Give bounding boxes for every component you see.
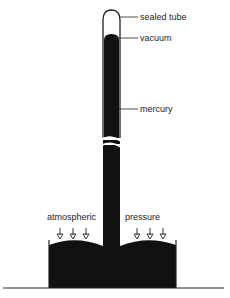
- label-mercury: mercury: [140, 104, 173, 114]
- mercury-column-upper: [104, 34, 119, 138]
- mercury-column-lower: [103, 145, 120, 250]
- label-vacuum: vacuum: [140, 33, 172, 43]
- label-pressure: pressure: [125, 212, 160, 222]
- barometer-diagram: [0, 0, 230, 298]
- label-atmospheric: atmospheric: [47, 212, 96, 222]
- pressure-arrows-left: [57, 228, 89, 239]
- pressure-arrows-right: [134, 228, 166, 239]
- label-sealed-tube: sealed tube: [140, 12, 187, 22]
- mercury-dish: [49, 240, 176, 288]
